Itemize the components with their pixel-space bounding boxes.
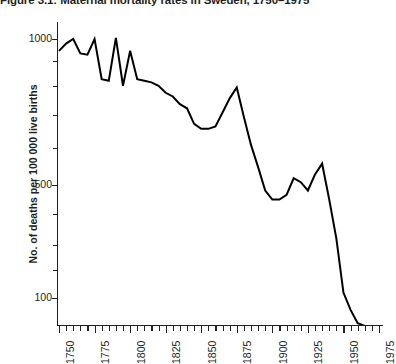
x-tick-1970: [372, 326, 373, 331]
x-tick-1940: [329, 326, 330, 331]
x-tick-1860: [215, 326, 216, 331]
x-tick-1845: [194, 326, 195, 331]
x-tick-1840: [187, 326, 188, 331]
x-tick-1915: [294, 326, 295, 331]
x-tick-1855: [208, 326, 209, 331]
x-tick-label-1950: 1950: [348, 341, 360, 364]
x-tick-1935: [322, 326, 323, 331]
x-tick-label-1825: 1825: [170, 341, 182, 364]
x-tick-label-1900: 1900: [277, 341, 289, 364]
x-tick-1795: [123, 326, 124, 331]
x-tick-1830: [173, 326, 174, 331]
x-tick-1770: [87, 326, 88, 331]
x-tick-1785: [109, 326, 110, 331]
x-tick-1965: [365, 326, 366, 331]
x-tick-1880: [244, 326, 245, 331]
x-tick-1925: [308, 326, 309, 333]
x-tick-1905: [279, 326, 280, 331]
x-tick-label-1800: 1800: [135, 341, 147, 364]
x-tick-1850: [201, 326, 202, 333]
x-tick-1790: [116, 326, 117, 331]
x-tick-1800: [130, 326, 131, 333]
y-tick-label-500: 500: [8, 178, 52, 190]
x-tick-label-1875: 1875: [241, 341, 253, 364]
x-tick-1875: [237, 326, 238, 333]
x-tick-label-1775: 1775: [99, 341, 111, 364]
x-tick-1920: [301, 326, 302, 331]
y-tick-label-100: 100: [8, 291, 52, 303]
x-tick-1890: [258, 326, 259, 331]
x-tick-1910: [287, 326, 288, 331]
x-tick-1820: [159, 326, 160, 331]
x-tick-1870: [230, 326, 231, 331]
x-tick-1865: [223, 326, 224, 331]
x-tick-1975: [379, 326, 380, 333]
x-tick-1760: [73, 326, 74, 331]
data-line-maternal-mortality: [59, 38, 379, 325]
x-tick-label-1750: 1750: [64, 341, 76, 364]
x-tick-1930: [315, 326, 316, 331]
x-tick-1815: [151, 326, 152, 331]
x-tick-1825: [166, 326, 167, 333]
x-tick-1895: [265, 326, 266, 331]
x-tick-label-1925: 1925: [312, 341, 324, 364]
x-tick-label-1850: 1850: [206, 341, 218, 364]
x-tick-1835: [180, 326, 181, 331]
x-axis-line: [57, 325, 383, 326]
x-tick-1960: [358, 326, 359, 331]
x-tick-1765: [80, 326, 81, 331]
x-tick-label-1975: 1975: [384, 341, 396, 364]
plot-svg: [57, 22, 383, 325]
x-tick-1810: [144, 326, 145, 331]
x-tick-1780: [102, 326, 103, 331]
chart-title: Figure 3.1: Maternal mortality rates in …: [0, 0, 391, 10]
plot-area: [57, 22, 383, 325]
x-tick-1885: [251, 326, 252, 331]
x-tick-1950: [343, 326, 344, 333]
x-tick-1805: [137, 326, 138, 331]
y-axis-labels: 1000 500 100: [0, 0, 52, 358]
x-tick-1955: [351, 326, 352, 331]
x-tick-1900: [272, 326, 273, 333]
x-tick-1755: [66, 326, 67, 331]
x-tick-1750: [59, 326, 60, 333]
x-tick-1775: [95, 326, 96, 333]
x-tick-1945: [336, 326, 337, 331]
y-tick-label-1000: 1000: [8, 32, 52, 44]
